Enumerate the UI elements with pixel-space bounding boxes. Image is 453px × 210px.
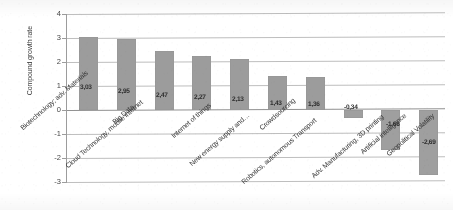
y-tick-label: 4 [47,10,61,18]
y-tick-label: -1 [47,130,61,138]
bar-value-label: -2,69 [422,138,436,145]
y-tick-label: 3 [47,34,61,42]
y-tick-label: -3 [47,178,61,186]
bar-value-label: 1,43 [270,99,282,106]
bar-value-label: 2,95 [118,87,130,94]
y-axis-title: Compound growth rate [26,26,33,95]
bar-value-label: 1,36 [308,100,320,107]
bar [155,51,174,110]
plot-area: 4 3 2 1 0 -1 -2 -3 [67,14,445,182]
bar-value-label: 3,03 [80,83,92,90]
bar-chart: Compound growth rate 4 3 2 1 0 -1 -2 -3 [0,0,453,210]
bar-value-label: 2,47 [156,91,168,98]
bar-value-label: -0,34 [344,102,358,109]
bar [192,56,211,111]
bar [117,39,136,110]
y-tick-label: 1 [47,82,61,90]
bar-value-label: 2,27 [194,93,206,100]
y-tick-label: 2 [47,58,61,66]
bar [344,110,363,118]
y-tick-label: -2 [47,154,61,162]
bar [230,59,249,110]
bar-value-label: 2,13 [232,95,244,102]
